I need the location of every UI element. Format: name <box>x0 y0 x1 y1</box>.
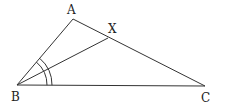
label-c: C <box>201 91 210 105</box>
label-a: A <box>66 3 76 17</box>
segment-bx <box>17 38 108 85</box>
segment-bc <box>17 85 205 86</box>
angle-arc-outer <box>40 58 52 85</box>
label-b: B <box>11 90 20 104</box>
label-x: X <box>108 22 117 36</box>
triangle-diagram: A X B C <box>0 0 225 111</box>
segment-ac <box>73 19 205 86</box>
